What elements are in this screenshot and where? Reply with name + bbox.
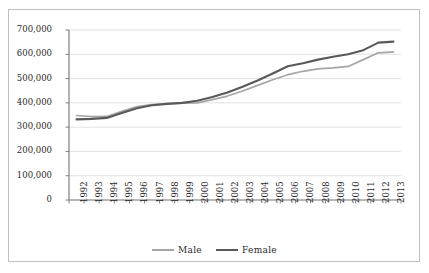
- x-axis-tick-label: 2008: [321, 181, 331, 203]
- legend-label-male: Male: [178, 245, 202, 255]
- chart-legend: Male Female: [0, 240, 429, 260]
- x-axis-tick-label: 1995: [124, 181, 134, 203]
- x-axis-tick-label: 2001: [215, 181, 225, 203]
- x-axis-tick-label: 1992: [79, 181, 89, 203]
- x-axis-tick-label: 1999: [185, 181, 195, 203]
- x-axis-tick-label: 2000: [200, 181, 210, 203]
- legend-item-male[interactable]: Male: [152, 245, 202, 255]
- x-axis-tick-label: 2010: [351, 181, 361, 203]
- legend-label-female: Female: [242, 245, 277, 255]
- x-axis-tick-label: 1993: [94, 181, 104, 203]
- x-axis-label-group: 1992199319941995199619971998199920002001…: [0, 0, 429, 273]
- x-axis-tick-label: 2003: [245, 181, 255, 203]
- x-axis-tick-label: 2002: [230, 181, 240, 203]
- legend-line-male-icon: [152, 249, 174, 251]
- legend-line-female-icon: [216, 249, 238, 251]
- x-axis-tick-label: 1994: [109, 181, 119, 203]
- x-axis-tick-label: 2006: [290, 181, 300, 203]
- x-axis-tick-label: 1997: [155, 181, 165, 203]
- x-axis-tick-label: 2004: [260, 181, 270, 203]
- x-axis-tick-label: 2012: [381, 181, 391, 203]
- x-axis-tick-label: 2007: [305, 181, 315, 203]
- x-axis-tick-label: 2005: [275, 181, 285, 203]
- x-axis-tick-label: 2013: [396, 181, 406, 203]
- legend-item-female[interactable]: Female: [216, 245, 277, 255]
- x-axis-tick-label: 1996: [139, 181, 149, 203]
- x-axis-tick-label: 2011: [366, 181, 376, 203]
- x-axis-tick-label: 1998: [170, 181, 180, 203]
- x-axis-tick-label: 2009: [336, 181, 346, 203]
